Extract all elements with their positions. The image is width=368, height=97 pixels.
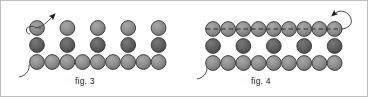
bead xyxy=(312,56,327,71)
bead xyxy=(151,55,166,70)
bead xyxy=(151,38,166,53)
bead xyxy=(206,39,221,54)
beadwork-diagram-canvas: fig. 3 fig. 4 xyxy=(0,0,368,97)
bead xyxy=(90,21,105,36)
figure-4-group xyxy=(197,11,351,79)
bead xyxy=(30,38,45,53)
figure-4-caption: fig. 4 xyxy=(251,76,271,86)
beadwork-illustration xyxy=(1,1,368,97)
bead xyxy=(121,55,136,70)
bead xyxy=(106,55,121,70)
bead xyxy=(45,55,60,70)
bead xyxy=(121,21,136,36)
fig3-bottom-row xyxy=(30,55,166,70)
bead xyxy=(327,39,342,54)
bead xyxy=(60,55,75,70)
bead xyxy=(266,56,281,71)
bead xyxy=(251,56,266,71)
bead xyxy=(151,21,166,36)
bead xyxy=(236,56,251,71)
bead xyxy=(121,38,136,53)
bead xyxy=(297,56,312,71)
bead xyxy=(90,55,105,70)
bead xyxy=(282,56,297,71)
bead xyxy=(221,56,236,71)
bead xyxy=(297,39,312,54)
bead xyxy=(75,55,90,70)
bead xyxy=(90,38,105,53)
bead xyxy=(236,39,251,54)
figure-3-caption: fig. 3 xyxy=(75,76,95,86)
bead xyxy=(206,56,221,71)
bead xyxy=(327,56,342,71)
bead xyxy=(30,55,45,70)
bead xyxy=(60,38,75,53)
fig4-middle-row xyxy=(206,39,342,54)
fig3-middle-row xyxy=(30,38,166,53)
fig3-top-row xyxy=(30,21,166,36)
bead xyxy=(266,39,281,54)
figure-3-group xyxy=(19,16,166,77)
fig4-bottom-row xyxy=(206,56,342,71)
bead xyxy=(60,21,75,36)
bead xyxy=(136,55,151,70)
